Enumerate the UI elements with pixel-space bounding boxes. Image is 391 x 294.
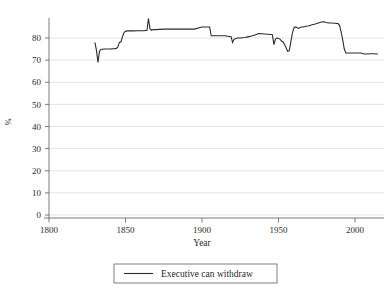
y-tick-label-70: 70 xyxy=(32,55,42,65)
legend-label-executive-can-withdraw: Executive can withdraw xyxy=(161,269,253,279)
x-tick-label-2000: 2000 xyxy=(346,225,365,235)
y-tick-label-20: 20 xyxy=(32,166,42,176)
x-tick-label-1800: 1800 xyxy=(40,225,59,235)
y-tick-label-40: 40 xyxy=(32,122,42,132)
x-axis-group: 18001850190019502000 xyxy=(40,218,384,235)
y-tick-label-10: 10 xyxy=(32,188,42,198)
x-tick-label-1950: 1950 xyxy=(270,225,289,235)
gridlines-group xyxy=(49,38,384,215)
x-axis-title: Year xyxy=(193,238,211,248)
series-group xyxy=(95,19,378,63)
series-line-executive-can-withdraw xyxy=(95,19,378,63)
y-tick-label-80: 80 xyxy=(32,33,42,43)
line-chart-canvas: 01020304050607080 18001850190019502000 %… xyxy=(0,0,391,294)
y-tick-label-0: 0 xyxy=(37,210,42,220)
y-axis-ticks: 01020304050607080 xyxy=(32,33,49,220)
legend-box: Executive can withdraw xyxy=(114,264,277,283)
x-tick-label-1850: 1850 xyxy=(117,225,136,235)
y-tick-label-60: 60 xyxy=(32,77,42,87)
chart-figure: 01020304050607080 18001850190019502000 %… xyxy=(0,0,391,294)
y-tick-label-30: 30 xyxy=(32,144,42,154)
y-tick-label-50: 50 xyxy=(32,100,42,110)
x-tick-label-1900: 1900 xyxy=(193,225,212,235)
y-axis-group: 01020304050607080 xyxy=(32,18,49,220)
x-axis-ticks: 18001850190019502000 xyxy=(40,218,365,235)
y-axis-title: % xyxy=(4,118,13,125)
